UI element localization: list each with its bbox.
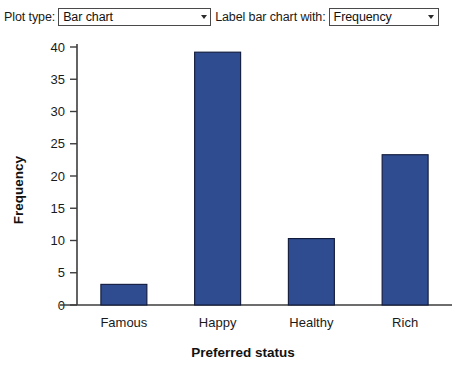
x-axis-tick-label: Healthy [289, 315, 334, 330]
bar[interactable] [195, 52, 241, 305]
y-axis-tick-label: 25 [51, 136, 65, 151]
bar-chart-canvas: Frequency 0510152025303540 FamousHappyHe… [0, 30, 466, 366]
plot-type-label: Plot type: [0, 10, 58, 24]
bar-chart: Frequency 0510152025303540 FamousHappyHe… [0, 30, 466, 366]
label-bar-chart-with-selected-value: Frequency [330, 9, 425, 25]
plot-toolbar: Plot type: Bar chart Label bar chart wit… [0, 6, 466, 28]
y-axis-title: Frequency [11, 155, 26, 224]
bar[interactable] [382, 155, 428, 305]
chevron-down-icon[interactable] [197, 9, 210, 25]
x-axis-tick-labels: FamousHappyHealthyRich [100, 315, 418, 330]
plot-type-select[interactable]: Bar chart [58, 8, 211, 26]
y-axis-tick-label: 35 [51, 72, 65, 87]
y-axis-tick-label: 20 [51, 169, 65, 184]
y-axis-tick-label: 5 [58, 265, 65, 280]
x-axis-tick-label: Rich [392, 315, 418, 330]
label-bar-chart-with-select[interactable]: Frequency [329, 8, 439, 26]
y-axis-tick-label: 40 [51, 40, 65, 55]
bar[interactable] [101, 284, 147, 305]
y-axis-ticks: 0510152025303540 [51, 40, 77, 313]
bar-series [101, 52, 428, 305]
y-axis-tick-label: 30 [51, 104, 65, 119]
bar[interactable] [288, 239, 334, 305]
label-bar-chart-with-label: Label bar chart with: [211, 10, 328, 24]
y-axis-tick-label: 15 [51, 201, 65, 216]
x-axis-tick-label: Happy [199, 315, 237, 330]
chevron-down-icon[interactable] [425, 9, 438, 25]
x-axis-title: Preferred status [191, 345, 295, 360]
x-axis-tick-label: Famous [100, 315, 147, 330]
plot-type-selected-value: Bar chart [59, 9, 197, 25]
y-axis-tick-label: 10 [51, 233, 65, 248]
